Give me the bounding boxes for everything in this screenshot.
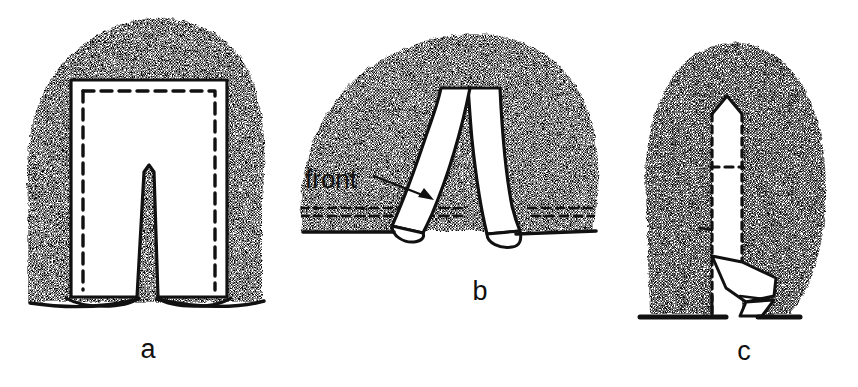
figure-container: a front	[0, 0, 858, 387]
callout-front-label: front	[305, 164, 358, 194]
panel-label-a: a	[140, 334, 156, 364]
trouser-folding-diagram: a front	[0, 0, 858, 387]
panel-label-c: c	[737, 336, 751, 366]
panel-label-b: b	[472, 276, 487, 306]
